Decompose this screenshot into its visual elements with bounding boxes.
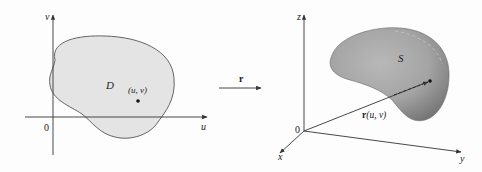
x-axis-label: x (277, 151, 283, 162)
left-origin-label: 0 (44, 122, 49, 133)
mapping-label: r (239, 73, 244, 84)
surface-s-label: S (398, 52, 404, 64)
vector-label-args: (u, v) (366, 110, 386, 121)
parametric-surface-diagram: v 0 u D (u, v) r z 0 x y S r(u, v) (0, 0, 482, 172)
v-axis-label: v (45, 11, 50, 22)
region-d-label: D (105, 79, 114, 91)
vector-label: r(u, v) (362, 110, 386, 121)
point-on-surface (428, 79, 432, 83)
z-axis-label: z (296, 11, 301, 22)
xyz-space (280, 15, 461, 153)
y-axis (304, 131, 461, 152)
point-uv-label: (u, v) (128, 85, 147, 95)
point-uv (136, 99, 140, 103)
y-axis-label: y (459, 153, 465, 164)
surface-s (330, 28, 449, 121)
u-axis-label: u (201, 121, 206, 132)
right-origin-label: 0 (295, 124, 300, 135)
x-axis (280, 131, 304, 153)
uv-plane (25, 15, 207, 155)
